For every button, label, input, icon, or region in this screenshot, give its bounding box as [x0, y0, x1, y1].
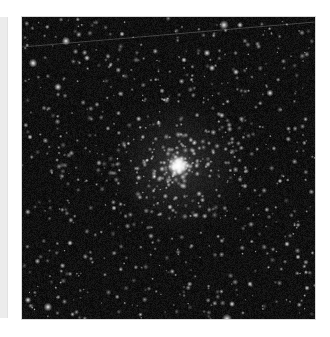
star-field-canvas — [22, 17, 315, 319]
star-cluster-photo: Globular star cluster on a dark sky back… — [22, 17, 315, 319]
side-panel-strip — [0, 17, 8, 318]
